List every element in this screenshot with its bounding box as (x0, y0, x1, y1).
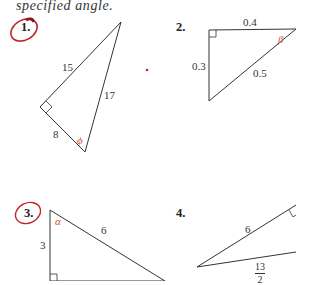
fraction-numerator: 13 (255, 261, 265, 272)
right-angle-marker (209, 30, 216, 37)
red-mark (146, 69, 149, 72)
triangle-4 (197, 205, 296, 267)
problem-4-number: 4. (176, 206, 185, 221)
fraction-denominator: 2 (258, 274, 263, 285)
problem-2-angle-beta: β (278, 34, 283, 45)
problem-1-side-15: 15 (62, 62, 73, 73)
problem-1-side-17: 17 (104, 90, 115, 101)
problem-1-angle-phi: ϕ (77, 135, 83, 146)
problem-3-number: 3. (24, 206, 33, 221)
right-angle-marker (289, 210, 296, 217)
problem-4-side-upper: 6 (245, 224, 251, 235)
problem-2-number: 2. (176, 20, 185, 35)
problem-2-side-top: 0.4 (243, 17, 257, 28)
problem-2-side-hypotenuse: 0.5 (253, 68, 267, 79)
problem-4-side-lower-fraction: 13 2 (255, 262, 265, 285)
problem-1-side-8: 8 (53, 129, 59, 140)
problem-3-side-hypotenuse: 6 (101, 225, 107, 236)
right-angle-marker (50, 274, 57, 281)
problem-3-angle-alpha: α (55, 216, 61, 227)
problem-2-side-left: 0.3 (192, 61, 206, 72)
problem-3-side-left: 3 (40, 240, 46, 251)
right-angle-marker (46, 101, 52, 113)
problem-1-number: 1. (21, 20, 30, 35)
triangle-3 (50, 210, 165, 281)
